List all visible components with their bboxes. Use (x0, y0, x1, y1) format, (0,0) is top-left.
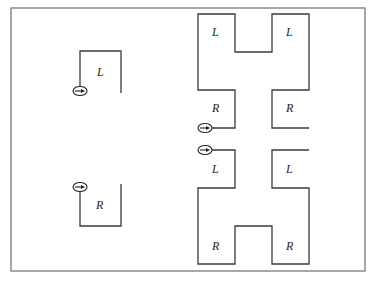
right-lower-maze: L L R R (198, 146, 309, 265)
label-right-upper-mid-left: R (211, 101, 220, 115)
maze-diagram: L R L L R R L L R R (0, 0, 373, 281)
start-marker-icon (198, 146, 212, 155)
label-right-bottom-right: R (285, 239, 294, 253)
label-left-bottom: R (95, 198, 104, 212)
label-right-top-right: L (285, 25, 293, 39)
left-top-maze: L (73, 51, 121, 96)
label-right-lower-mid-left: L (211, 162, 219, 176)
start-marker-icon (73, 183, 87, 192)
label-right-upper-mid-right: R (285, 101, 294, 115)
diagram-frame (11, 8, 365, 271)
label-right-bottom-left: R (211, 239, 220, 253)
label-left-top: L (96, 65, 104, 79)
left-bottom-maze: R (73, 183, 121, 227)
label-right-lower-mid-right: L (285, 162, 293, 176)
start-marker-icon (73, 87, 87, 96)
label-right-top-left: L (211, 25, 219, 39)
start-marker-icon (198, 124, 212, 133)
right-upper-maze: L L R R (198, 14, 309, 133)
